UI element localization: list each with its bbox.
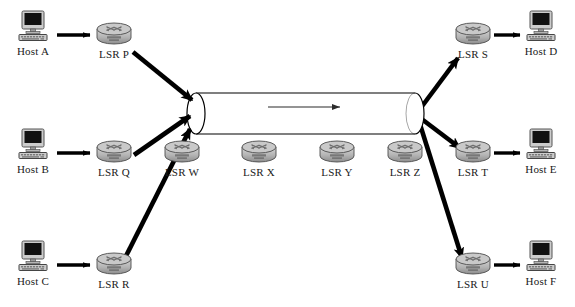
host-b-label: Host B — [17, 163, 49, 175]
lsr-r-label: LSR R — [98, 278, 129, 290]
router-icon — [455, 252, 491, 276]
tunnel-egress-seam — [406, 93, 415, 134]
router-lsr-w[interactable]: LSR W — [164, 140, 200, 178]
host-host-e[interactable]: Host E — [524, 127, 558, 175]
host-f-label: Host F — [526, 275, 557, 287]
router-lsr-y[interactable]: LSR Y — [319, 140, 355, 178]
lsr-w-label: LSR W — [165, 166, 199, 178]
computer-icon — [524, 9, 558, 43]
router-icon — [241, 140, 277, 164]
tunnel-ingress-mouth-inner — [196, 93, 205, 134]
lsr-u-label: LSR U — [457, 278, 489, 290]
router-icon — [96, 140, 132, 164]
tunnel-body — [196, 93, 424, 134]
tunnel-ingress-mouth-outer — [187, 93, 196, 134]
arrow-tunnel-egress-to-lsr-s — [417, 58, 458, 113]
router-lsr-t[interactable]: LSR T — [455, 140, 491, 178]
arrow-tunnel-egress-to-lsr-u — [418, 118, 462, 258]
host-host-f[interactable]: Host F — [524, 239, 558, 287]
host-c-label: Host C — [17, 275, 49, 287]
router-icon — [96, 22, 132, 46]
computer-icon — [524, 239, 558, 273]
router-icon — [164, 140, 200, 164]
lsr-p-label: LSR P — [99, 48, 129, 60]
router-icon — [455, 22, 491, 46]
lsr-t-label: LSR T — [458, 166, 488, 178]
host-host-d[interactable]: Host D — [524, 9, 558, 57]
lsr-y-label: LSR Y — [321, 166, 352, 178]
host-host-a[interactable]: Host A — [16, 9, 50, 57]
router-lsr-s[interactable]: LSR S — [455, 22, 491, 60]
computer-icon — [16, 239, 50, 273]
router-lsr-q[interactable]: LSR Q — [96, 140, 132, 178]
lsr-x-label: LSR X — [243, 166, 275, 178]
router-icon — [96, 252, 132, 276]
router-lsr-p[interactable]: LSR P — [96, 22, 132, 60]
host-a-label: Host A — [17, 45, 49, 57]
host-e-label: Host E — [525, 163, 556, 175]
router-lsr-z[interactable]: LSR Z — [387, 140, 423, 178]
host-host-c[interactable]: Host C — [16, 239, 50, 287]
computer-icon — [16, 127, 50, 161]
arrow-lsr-p-to-tunnel-ingress — [133, 52, 192, 100]
router-lsr-u[interactable]: LSR U — [455, 252, 491, 290]
router-icon — [319, 140, 355, 164]
computer-icon — [524, 127, 558, 161]
lsr-s-label: LSR S — [458, 48, 488, 60]
lsr-q-label: LSR Q — [98, 166, 130, 178]
router-icon — [455, 140, 491, 164]
router-lsr-x[interactable]: LSR X — [241, 140, 277, 178]
host-host-b[interactable]: Host B — [16, 127, 50, 175]
arrow-tunnel-egress-to-lsr-t — [419, 117, 460, 148]
network-diagram-canvas: Host A Host B Host C — [0, 0, 575, 307]
router-lsr-r[interactable]: LSR R — [96, 252, 132, 290]
router-icon — [387, 140, 423, 164]
lsr-z-label: LSR Z — [390, 166, 421, 178]
computer-icon — [16, 9, 50, 43]
host-d-label: Host D — [525, 45, 558, 57]
